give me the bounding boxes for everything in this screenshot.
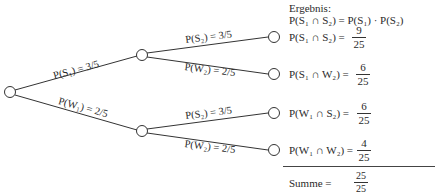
root-node [5, 87, 16, 98]
denominator: 25 [354, 38, 365, 50]
result-fraction-s1-s2: 925 [352, 25, 366, 50]
leaf-node-s1-s2 [269, 32, 280, 43]
denominator: 25 [356, 183, 366, 194]
numerator: 4 [360, 138, 368, 150]
result-label-s1-s2: P(S₁ ∩ S₂) = [289, 32, 345, 43]
numerator: 6 [360, 101, 368, 113]
denominator: 25 [359, 114, 370, 126]
numerator: 6 [359, 62, 367, 74]
leaf-node-s1-w2 [269, 69, 280, 80]
sum-divider [283, 166, 435, 167]
sum-label: Summe = [289, 178, 332, 189]
result-fraction-w1-w2: 425 [357, 138, 371, 163]
result-label-w1-s2: P(W₁ ∩ S₂) = [289, 108, 349, 119]
result-label-w1-w2: P(W₁ ∩ W₂) = [289, 145, 353, 156]
result-fraction-w1-s2: 625 [357, 101, 371, 126]
result-heading: Ergebnis: [289, 3, 331, 14]
result-label-s1-w2: P(S₁ ∩ W₂) = [289, 69, 349, 80]
denominator: 25 [358, 75, 369, 87]
leaf-node-w1-s2 [269, 108, 280, 119]
leaf-node-w1-w2 [269, 145, 280, 156]
node-s1 [137, 50, 148, 61]
sum-fraction: 2525 [354, 171, 368, 194]
product-rule-formula: P(S₁ ∩ S₂) = P(S₁) · P(S₂) [289, 15, 403, 26]
numerator: 25 [355, 171, 367, 182]
numerator: 9 [355, 25, 363, 37]
result-fraction-s1-w2: 625 [356, 62, 370, 87]
denominator: 25 [359, 151, 370, 163]
node-w1 [137, 126, 148, 137]
